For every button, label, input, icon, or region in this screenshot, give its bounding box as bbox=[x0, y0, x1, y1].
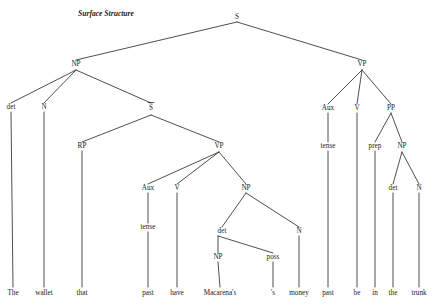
tree-edge bbox=[82, 115, 151, 142]
tree-edge bbox=[11, 70, 76, 103]
tree-node-label: V bbox=[354, 104, 360, 112]
tree-terminal-word: past bbox=[322, 289, 334, 297]
tree-node-label: RP bbox=[78, 142, 87, 150]
tree-node-label: Aux bbox=[322, 104, 335, 112]
tree-terminal-word: that bbox=[77, 289, 88, 297]
tree-terminal-word: The bbox=[7, 289, 18, 297]
tree-node-label: VP bbox=[357, 60, 366, 68]
tree-terminal-word: trunk bbox=[411, 289, 427, 297]
tree-edge bbox=[44, 70, 76, 103]
tree-terminal-word: past bbox=[142, 289, 154, 297]
tree-edges-group bbox=[11, 22, 419, 253]
figure-caption: Surface Structure bbox=[78, 9, 135, 18]
tree-edge bbox=[362, 70, 391, 104]
tree-node-label: tense bbox=[141, 223, 156, 231]
tree-node-label: tense bbox=[321, 142, 336, 150]
tree-edge bbox=[375, 113, 391, 142]
tree-terminal-word: the bbox=[389, 289, 398, 297]
tree-edge bbox=[328, 70, 362, 104]
tree-terminal-word: Macarena's bbox=[204, 289, 237, 297]
tree-node-label: V bbox=[174, 184, 180, 192]
tree-node-label: PP bbox=[387, 104, 395, 112]
tree-node-label: NP bbox=[71, 60, 80, 68]
tree-leaf-stem bbox=[218, 262, 220, 287]
tree-node-label: S bbox=[149, 104, 153, 112]
tree-node-label: S bbox=[235, 13, 239, 21]
tree-node-label: det bbox=[218, 227, 227, 235]
tree-terminal-word: have bbox=[170, 289, 184, 297]
tree-edge bbox=[393, 152, 402, 184]
tree-edge bbox=[237, 22, 362, 60]
tree-terminal-word: money bbox=[289, 289, 309, 297]
tree-node-label: N bbox=[296, 227, 302, 235]
tree-node-label: poss bbox=[267, 253, 280, 261]
tree-node-label: VP bbox=[214, 142, 223, 150]
tree-node-label: N bbox=[41, 103, 47, 111]
tree-node-label: NP bbox=[213, 253, 222, 261]
tree-edge bbox=[219, 152, 246, 184]
tree-node-label: NP bbox=[397, 142, 406, 150]
tree-node-label: det bbox=[7, 103, 16, 111]
syntax-tree-canvas: SNPVPdetNSAuxVPPRPVPtenseprepNPAuxVNPdet… bbox=[0, 0, 435, 306]
tree-node-label: prep bbox=[369, 142, 382, 150]
tree-nodes-group: SNPVPdetNSAuxVPPRPVPtenseprepNPAuxVNPdet… bbox=[7, 13, 423, 261]
tree-edge bbox=[391, 113, 402, 142]
tree-node-label: det bbox=[389, 184, 398, 192]
tree-terminal-word: wallet bbox=[35, 289, 53, 297]
tree-terminal-word: 's bbox=[271, 289, 275, 297]
tree-terminal-word: in bbox=[372, 289, 378, 297]
syntax-tree-figure: SNPVPdetNSAuxVPPRPVPtenseprepNPAuxVNPdet… bbox=[0, 0, 435, 306]
tree-leaves-group: ThewalletthatpasthaveMacarena's'smoneypa… bbox=[7, 289, 427, 297]
tree-edge bbox=[222, 193, 246, 227]
tree-node-label: N bbox=[416, 184, 422, 192]
tree-edge bbox=[218, 236, 273, 253]
tree-leaf-stem bbox=[11, 112, 13, 287]
tree-edge bbox=[76, 22, 237, 60]
tree-node-label: NP bbox=[241, 184, 250, 192]
tree-edge bbox=[246, 193, 299, 227]
tree-edge bbox=[402, 152, 419, 184]
tree-node-label: Aux bbox=[142, 184, 155, 192]
tree-edge bbox=[151, 115, 219, 142]
tree-edge bbox=[76, 70, 151, 103]
tree-terminal-word: be bbox=[354, 289, 361, 297]
tree-edge bbox=[357, 70, 362, 104]
